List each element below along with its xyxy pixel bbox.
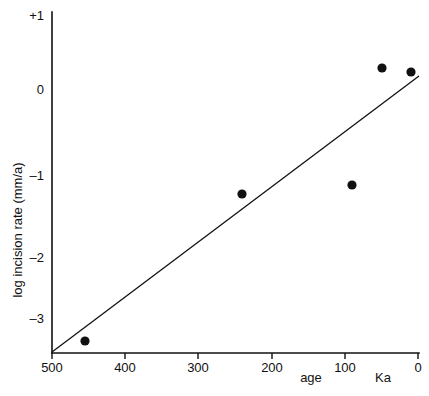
x-tick-label-400: 400 bbox=[114, 360, 136, 375]
y-tick-label-minus2: –2 bbox=[30, 250, 44, 265]
x-tick-label-0: 0 bbox=[414, 360, 421, 375]
data-point bbox=[80, 336, 89, 345]
y-axis-tick-labels: +1 0 –1 –2 –3 bbox=[29, 8, 44, 326]
x-tick-label-200: 200 bbox=[261, 360, 283, 375]
data-point bbox=[347, 180, 356, 189]
x-tick-label-300: 300 bbox=[187, 360, 209, 375]
x-axis-tick-labels: 500 400 300 200 100 0 bbox=[41, 360, 421, 375]
y-tick-label-0: 0 bbox=[37, 82, 44, 97]
chart-figure: 500 400 300 200 100 0 +1 0 –1 –2 –3 log … bbox=[0, 0, 429, 396]
scatter-plot-canvas: 500 400 300 200 100 0 +1 0 –1 –2 –3 log … bbox=[0, 0, 429, 396]
trend-line bbox=[52, 76, 419, 352]
x-tick-label-100: 100 bbox=[334, 360, 356, 375]
data-point bbox=[377, 63, 386, 72]
x-axis-unit-label: Ka bbox=[375, 370, 392, 385]
data-point bbox=[406, 67, 415, 76]
y-tick-label-plus1: +1 bbox=[29, 8, 44, 23]
y-tick-label-minus1: –1 bbox=[30, 168, 44, 183]
data-point bbox=[237, 189, 246, 198]
y-tick-label-minus3: –3 bbox=[30, 311, 44, 326]
x-axis-ticks bbox=[52, 353, 418, 359]
x-axis-title: age bbox=[300, 370, 322, 385]
x-tick-label-500: 500 bbox=[41, 360, 63, 375]
y-axis-title: log incision rate (mm/a) bbox=[10, 162, 25, 297]
